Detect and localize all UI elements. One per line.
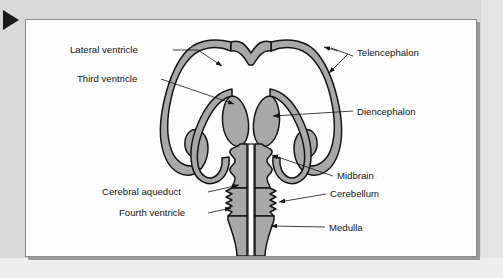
midbrain-body-left bbox=[230, 144, 247, 188]
figure-panel: Lateral ventricle Third ventricle Cerebr… bbox=[25, 19, 477, 257]
medulla-body-left bbox=[228, 216, 247, 256]
label-fourth-ventricle: Fourth ventricle bbox=[119, 207, 185, 218]
leader-telencephalon-arrow-bottom bbox=[329, 54, 348, 73]
label-midbrain: Midbrain bbox=[337, 170, 374, 181]
label-lateral-ventricle: Lateral ventricle bbox=[70, 44, 138, 55]
play-triangle-marker-icon bbox=[3, 10, 19, 30]
label-medulla: Medulla bbox=[329, 222, 363, 233]
diencephalon-body-left bbox=[222, 96, 248, 146]
leader-medulla bbox=[271, 226, 325, 227]
leader-telencephalon-arrow-top bbox=[324, 47, 338, 51]
screenshot-root: Lateral ventricle Third ventricle Cerebr… bbox=[0, 0, 503, 278]
label-telencephalon: Telencephalon bbox=[357, 47, 419, 58]
brain-ventricle-diagram: Lateral ventricle Third ventricle Cerebr… bbox=[26, 20, 476, 256]
medulla-body-right bbox=[255, 216, 274, 256]
leader-telencephalon-fork bbox=[331, 48, 353, 56]
midbrain-body-right bbox=[255, 144, 272, 188]
cerebellum-body-left bbox=[226, 188, 247, 216]
central-canal bbox=[248, 144, 254, 256]
diencephalon-body-right bbox=[253, 96, 279, 146]
label-cerebellum: Cerebellum bbox=[330, 188, 379, 199]
telencephalon-roof-band bbox=[231, 41, 271, 65]
label-cerebral-aqueduct: Cerebral aqueduct bbox=[102, 186, 181, 197]
page-edge-right bbox=[481, 0, 503, 278]
ventricle-cavities-group bbox=[248, 144, 254, 256]
label-diencephalon: Diencephalon bbox=[357, 106, 416, 117]
label-third-ventricle: Third ventricle bbox=[77, 73, 137, 84]
cerebellum-body-right bbox=[255, 188, 276, 216]
leader-cerebellum bbox=[279, 194, 326, 202]
page-edge-bottom bbox=[0, 258, 503, 278]
